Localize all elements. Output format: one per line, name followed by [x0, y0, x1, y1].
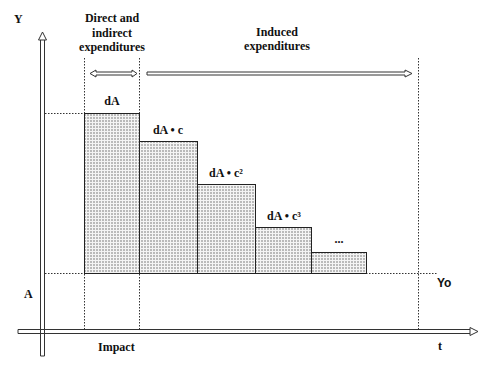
- level-label-Yo: Yo: [437, 276, 451, 291]
- direct-phase-arrow: [90, 70, 137, 77]
- diagram-canvas: [0, 0, 491, 370]
- bar-label-dA: dA: [104, 94, 119, 109]
- x-axis-arrow-icon: [470, 328, 478, 336]
- direct-phase-label-1: Direct and: [85, 11, 139, 26]
- bars: [85, 114, 367, 274]
- x-axis: [18, 328, 478, 336]
- bar-dA-c2: [198, 185, 256, 274]
- direct-phase-label-3: expenditures: [79, 40, 145, 55]
- baseline-label-A: A: [24, 287, 33, 302]
- bar-label-dA-c3: dA • c³: [267, 209, 301, 224]
- induced-phase-label-1: Induced: [256, 25, 298, 40]
- bar-dA-c: [140, 142, 198, 274]
- bar-dA-c3: [256, 228, 312, 274]
- direct-phase-label-2: indirect: [92, 26, 132, 41]
- bar-ellipsis: [312, 253, 367, 274]
- bar-label-ellipsis: ...: [335, 232, 344, 247]
- bar-label-dA-c: dA • c: [153, 123, 183, 138]
- y-axis-arrow-icon: [39, 32, 47, 40]
- bar-dA: [85, 114, 140, 274]
- x-axis-label: t: [438, 339, 442, 354]
- induced-phase-label-2: expenditures: [244, 39, 310, 54]
- y-axis: [39, 32, 47, 356]
- induced-phase-arrow: [147, 70, 412, 77]
- y-axis-label: Y: [14, 12, 23, 27]
- x-origin-label-impact: Impact: [98, 340, 135, 355]
- bar-label-dA-c2: dA • c²: [209, 166, 243, 181]
